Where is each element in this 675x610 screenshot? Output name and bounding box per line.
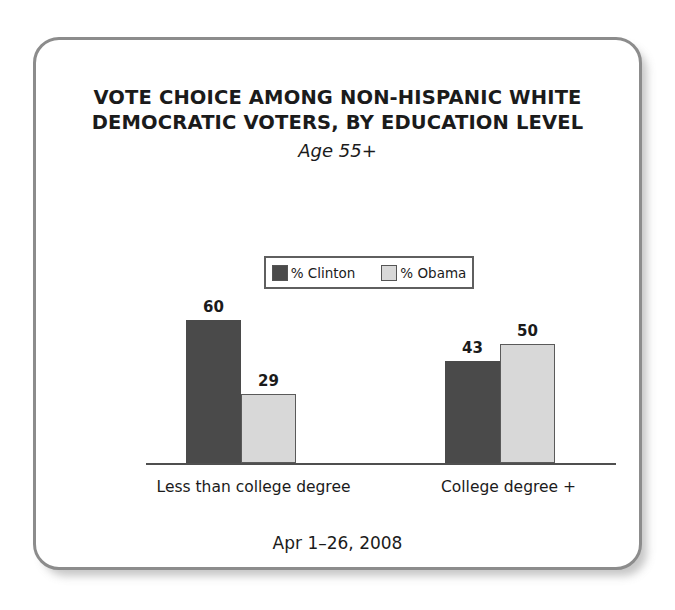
bar-value-label: 60 bbox=[203, 299, 224, 316]
legend-swatch-clinton bbox=[272, 265, 288, 281]
bar-value-label: 50 bbox=[517, 323, 538, 340]
legend-item-clinton: % Clinton bbox=[272, 265, 356, 281]
category-label-less-than-college: Less than college degree bbox=[146, 477, 361, 497]
legend-label-clinton: % Clinton bbox=[291, 265, 356, 281]
bar-wrap-obama-less-than-college: 29 bbox=[241, 373, 296, 463]
bar-clinton-less-than-college bbox=[186, 320, 241, 463]
bar-value-label: 43 bbox=[462, 340, 483, 357]
bar-obama-college-degree bbox=[500, 344, 555, 463]
bar-value-label: 29 bbox=[258, 373, 279, 390]
bar-wrap-obama-college-degree: 50 bbox=[500, 323, 555, 463]
legend-item-obama: % Obama bbox=[381, 265, 466, 281]
chart-title-block: VOTE CHOICE AMONG NON-HISPANIC WHITE DEM… bbox=[36, 85, 639, 162]
bar-wrap-clinton-less-than-college: 60 bbox=[186, 299, 241, 463]
chart-baseline-axis bbox=[146, 463, 616, 465]
chart-plot-area: 60 29 43 50 bbox=[146, 302, 616, 465]
chart-subtitle: Age 55+ bbox=[36, 140, 639, 162]
chart-card: VOTE CHOICE AMONG NON-HISPANIC WHITE DEM… bbox=[33, 37, 642, 570]
bar-obama-less-than-college bbox=[241, 394, 296, 463]
x-axis-category-labels: Less than college degree College degree … bbox=[146, 477, 616, 499]
legend-swatch-obama bbox=[381, 265, 397, 281]
category-label-college-degree: College degree + bbox=[401, 477, 616, 497]
bar-group-less-than-college: 60 29 bbox=[186, 302, 296, 463]
page-title-line-2: DEMOCRATIC VOTERS, BY EDUCATION LEVEL bbox=[36, 110, 639, 135]
bar-group-college-degree: 43 50 bbox=[445, 302, 555, 463]
bar-wrap-clinton-college-degree: 43 bbox=[445, 340, 500, 463]
bar-clinton-college-degree bbox=[445, 361, 500, 463]
chart-legend: % Clinton % Obama bbox=[264, 256, 474, 289]
legend-label-obama: % Obama bbox=[400, 265, 466, 281]
page-title-line-1: VOTE CHOICE AMONG NON-HISPANIC WHITE bbox=[36, 85, 639, 110]
chart-footnote-date: Apr 1–26, 2008 bbox=[36, 533, 639, 553]
